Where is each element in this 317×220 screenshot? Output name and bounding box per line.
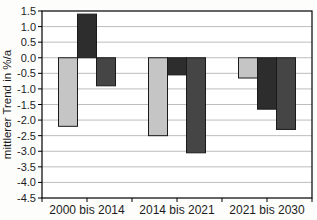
y-tick-label: -2.5 [17, 130, 36, 142]
y-tick-label: 1.5 [21, 5, 36, 17]
bar-hellgrau-2000bis2014 [59, 58, 78, 127]
y-tick-label: -4.5 [17, 192, 36, 204]
y-tick-label: -3.0 [17, 145, 36, 157]
y-tick-label: -1.0 [17, 83, 36, 95]
x-category-label: 2000 bis 2014 [49, 203, 125, 217]
bar-dunkelgrau-2014bis2021 [187, 58, 206, 153]
bar-dunkelgrau-2021bis2030 [277, 58, 296, 130]
y-axis-title: mittlerer Trend in %/a [1, 49, 13, 159]
bar-hellgrau-2014bis2021 [149, 58, 168, 136]
y-tick-label: -1.5 [17, 99, 36, 111]
x-category-label: 2021 bis 2030 [229, 203, 305, 217]
y-tick-label: -2.0 [17, 114, 36, 126]
y-tick-label: -4.0 [17, 176, 36, 188]
bar-hellgrau-2021bis2030 [239, 58, 258, 78]
x-category-label: 2014 bis 2021 [139, 203, 215, 217]
y-tick-label: 1.0 [21, 21, 36, 33]
bar-schwarz-2014bis2021 [168, 58, 187, 75]
y-tick-label: 0.5 [21, 36, 36, 48]
bar-dunkelgrau-2000bis2014 [97, 58, 116, 86]
bar-schwarz-2021bis2030 [258, 58, 277, 109]
y-tick-label: 0.0 [21, 52, 36, 64]
trend-bar-chart-figure: 1.51.00.50.0-0.5-1.0-1.5-2.0-2.5-3.0-3.5… [0, 0, 317, 220]
chart-canvas: 1.51.00.50.0-0.5-1.0-1.5-2.0-2.5-3.0-3.5… [0, 0, 317, 220]
y-tick-label: -3.5 [17, 161, 36, 173]
bar-schwarz-2000bis2014 [78, 14, 97, 58]
y-tick-label: -0.5 [17, 67, 36, 79]
